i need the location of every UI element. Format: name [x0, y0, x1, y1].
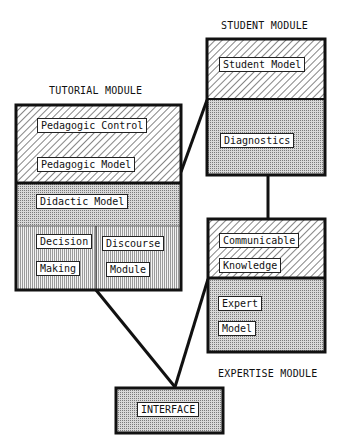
student-module-title: STUDENT MODULE: [221, 20, 308, 31]
decision-making-label-1: Decision: [36, 234, 92, 249]
tutorial-module-title: TUTORIAL MODULE: [49, 85, 142, 96]
expertise-module-title: EXPERTISE MODULE: [218, 368, 318, 379]
discourse-module-label-1: Discourse: [102, 236, 164, 251]
student-model-label: Student Model: [219, 57, 305, 72]
connector-expertise-interface: [175, 279, 208, 387]
decision-making-label-2: Making: [36, 261, 80, 276]
expert-model-label-2: Model: [218, 321, 256, 336]
pedagogic-model-label: Pedagogic Model: [37, 157, 135, 172]
pedagogic-control-label: Pedagogic Control: [37, 118, 147, 133]
didactic-model-label: Didactic Model: [36, 194, 128, 209]
connector-tutorial-student: [181, 100, 207, 172]
expert-model-label-1: Expert: [218, 296, 262, 311]
communicable-knowledge-label-2: Knowledge: [219, 258, 281, 273]
connector-tutorial-interface: [96, 290, 175, 387]
discourse-module-label-2: Module: [106, 262, 150, 277]
interface-label: INTERFACE: [137, 402, 199, 417]
communicable-knowledge-label-1: Communicable: [219, 233, 299, 248]
diagnostics-label: Diagnostics: [220, 133, 294, 148]
